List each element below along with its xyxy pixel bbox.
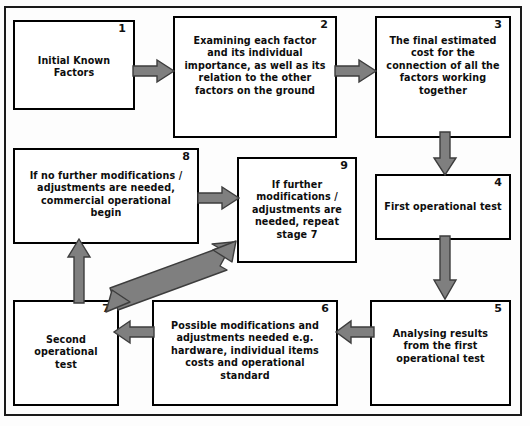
node-label-1: Initial Known Factors <box>19 55 129 80</box>
node-number-3: 3 <box>494 19 502 31</box>
flowchart-canvas: 1 Initial Known Factors 2 Examining each… <box>0 0 530 426</box>
node-label-7: Second operational test <box>19 334 113 371</box>
node-number-4: 4 <box>494 177 502 189</box>
arrow-6-to-7 <box>113 320 155 344</box>
node-number-1: 1 <box>118 23 126 35</box>
flow-node-6[interactable]: 6 Possible modifications and adjustments… <box>152 300 338 406</box>
flow-node-2[interactable]: 2 Examining each factor and its individu… <box>173 16 337 138</box>
flow-node-5[interactable]: 5 Analysing results from the first opera… <box>370 300 511 406</box>
arrow-7-to-8 <box>66 238 92 304</box>
node-number-5: 5 <box>494 303 502 315</box>
arrow-3-to-4 <box>433 132 457 176</box>
arrow-5-to-6 <box>335 320 375 344</box>
arrow-4-to-5 <box>433 236 457 300</box>
arrow-9-to-7 <box>100 240 240 314</box>
node-number-9: 9 <box>340 160 348 172</box>
flow-node-9[interactable]: 9 If further modifications / adjustments… <box>237 157 357 263</box>
arrow-1-to-2 <box>133 60 175 82</box>
node-number-6: 6 <box>321 303 329 315</box>
node-label-6: Possible modifications and adjustments n… <box>158 320 332 382</box>
node-label-4: First operational test <box>381 201 505 213</box>
node-label-3: The final estimated cost for the connect… <box>381 35 505 97</box>
flow-node-8[interactable]: 8 If no further modifications / adjustme… <box>13 148 199 244</box>
node-label-5: Analysing results from the first operati… <box>376 328 505 365</box>
arrow-8-to-9 <box>198 186 240 210</box>
node-number-2: 2 <box>320 19 328 31</box>
flow-node-1[interactable]: 1 Initial Known Factors <box>13 20 135 110</box>
node-label-8: If no further modifications / adjustment… <box>19 170 193 220</box>
arrow-2-to-3 <box>335 60 377 82</box>
flow-node-7[interactable]: 7 Second operational test <box>13 300 119 406</box>
node-number-8: 8 <box>182 151 190 163</box>
node-label-9: If further modifications / adjustments a… <box>243 179 351 241</box>
node-label-2: Examining each factor and its individual… <box>179 35 331 97</box>
flow-node-3[interactable]: 3 The final estimated cost for the conne… <box>375 16 511 138</box>
flow-node-4[interactable]: 4 First operational test <box>375 174 511 240</box>
